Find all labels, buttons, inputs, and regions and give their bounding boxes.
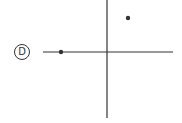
point-left-on-x-axis xyxy=(59,50,63,54)
coordinate-diagram xyxy=(0,0,182,123)
point-upper-right xyxy=(126,16,130,20)
